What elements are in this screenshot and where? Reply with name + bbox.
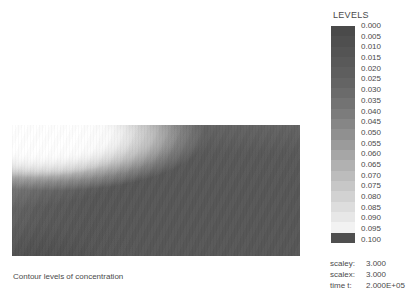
colorbar-band (331, 181, 355, 191)
level-label: 0.065 (361, 160, 395, 171)
colorbar-band (331, 140, 355, 150)
colorbar-band (331, 171, 355, 181)
level-label: 0.050 (361, 128, 395, 139)
level-label: 0.080 (361, 192, 395, 203)
level-label: 0.060 (361, 149, 395, 160)
time-value: 2.000E+05 (366, 280, 405, 291)
scalex-value: 3.000 (366, 269, 386, 280)
colorbar-band (331, 57, 355, 67)
scaley-value: 3.000 (366, 258, 386, 269)
colorbar-band (331, 160, 355, 170)
colorbar-band (331, 119, 355, 129)
colorbar-band (331, 78, 355, 88)
level-label: 0.095 (361, 224, 395, 235)
plot-caption: Contour levels of concentration (13, 272, 123, 281)
colorbar-band (331, 233, 355, 243)
level-label: 0.015 (361, 53, 395, 64)
level-label: 0.030 (361, 85, 395, 96)
colorbar-band (331, 109, 355, 119)
colorbar-band (331, 212, 355, 222)
level-label: 0.020 (361, 64, 395, 75)
info-row-scalex: scalex: 3.000 (330, 269, 405, 280)
colorbar-band (331, 202, 355, 212)
colorbar-band (331, 129, 355, 139)
colorbar-band (331, 88, 355, 98)
level-label: 0.005 (361, 32, 395, 43)
info-row-scaley: scaley: 3.000 (330, 258, 405, 269)
level-label: 0.090 (361, 213, 395, 224)
level-label: 0.025 (361, 74, 395, 85)
colorbar-band (331, 150, 355, 160)
level-label: 0.010 (361, 42, 395, 53)
level-label: 0.000 (361, 21, 395, 32)
info-block: scaley: 3.000 scalex: 3.000 time t: 2.00… (330, 258, 405, 291)
scaley-label: scaley: (330, 258, 366, 269)
info-row-time: time t: 2.000E+05 (330, 280, 405, 291)
level-label: 0.070 (361, 171, 395, 182)
level-label: 0.075 (361, 181, 395, 192)
level-label: 0.085 (361, 203, 395, 214)
contour-mesh-lines (12, 125, 300, 256)
colorbar-band (331, 222, 355, 232)
colorbar-band (331, 98, 355, 108)
level-label-list: 0.0000.0050.0100.0150.0200.0250.0300.035… (361, 21, 395, 245)
level-label: 0.035 (361, 96, 395, 107)
level-label: 0.100 (361, 235, 395, 246)
colorbar-band (331, 36, 355, 46)
colorbar-band (331, 191, 355, 201)
colorbar-band (331, 47, 355, 57)
level-label: 0.045 (361, 117, 395, 128)
level-label: 0.055 (361, 139, 395, 150)
contour-plot (12, 125, 300, 256)
legend-title: LEVELS (333, 10, 369, 20)
colorbar (331, 26, 355, 243)
colorbar-band (331, 67, 355, 77)
level-label: 0.040 (361, 107, 395, 118)
colorbar-band (331, 26, 355, 36)
time-label: time t: (330, 280, 366, 291)
scalex-label: scalex: (330, 269, 366, 280)
